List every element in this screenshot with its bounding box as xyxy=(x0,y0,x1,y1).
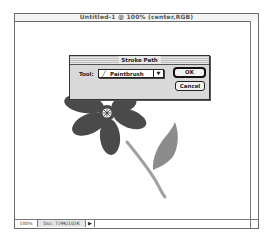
leaf-shape xyxy=(153,122,178,170)
cancel-button[interactable]: Cancel xyxy=(175,81,205,91)
ok-button[interactable]: OK xyxy=(173,67,206,78)
tool-dropdown-value: Paintbrush xyxy=(110,70,144,78)
flower-center xyxy=(103,109,112,118)
tool-label: Tool: xyxy=(79,70,94,78)
tool-dropdown[interactable]: ╱ Paintbrush ▼ xyxy=(98,69,164,78)
canvas-artwork xyxy=(0,0,274,237)
dialog-titlebar[interactable]: Stroke Path xyxy=(70,56,209,65)
chevron-down-icon: ▼ xyxy=(153,70,163,77)
paintbrush-icon: ╱ xyxy=(102,70,106,78)
stroke-path-dialog: Stroke Path Tool: ╱ Paintbrush ▼ OK Canc… xyxy=(69,55,210,100)
dialog-title: Stroke Path xyxy=(118,56,160,64)
flower-shape xyxy=(63,92,149,156)
